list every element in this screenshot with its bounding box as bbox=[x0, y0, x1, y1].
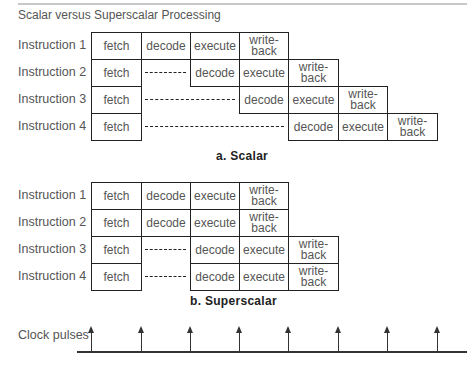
stage-text: back bbox=[299, 277, 328, 288]
stage-text: execute bbox=[243, 68, 285, 79]
stage-text: decode bbox=[244, 95, 283, 106]
stage-execute: execute bbox=[239, 59, 289, 87]
stage-fetch: fetch bbox=[91, 182, 142, 210]
stage-execute: execute bbox=[190, 182, 240, 210]
instruction-label: Instruction 3 bbox=[18, 86, 88, 113]
clock-pulse-arrow-icon bbox=[338, 328, 340, 352]
stage-execute: execute bbox=[190, 32, 240, 60]
stage-fetch: fetch bbox=[91, 59, 142, 87]
stage-text: back bbox=[249, 46, 278, 57]
stage-text: back bbox=[249, 196, 278, 207]
stage-writeback: write-back bbox=[288, 263, 339, 291]
stage-text: decode bbox=[195, 68, 234, 79]
dash-line bbox=[145, 126, 284, 127]
stage-fetch: fetch bbox=[91, 209, 142, 237]
stage-text: fetch bbox=[103, 191, 129, 202]
stage-writeback: write-back bbox=[387, 113, 438, 141]
stage-text: decode bbox=[195, 245, 234, 256]
stage-text-wrap: write-back bbox=[299, 239, 328, 261]
instruction-label: Instruction 4 bbox=[18, 113, 88, 140]
clock-baseline bbox=[77, 351, 467, 353]
stall-dashes bbox=[145, 86, 235, 113]
stage-decode: decode bbox=[239, 86, 289, 114]
instruction-label: Instruction 2 bbox=[18, 59, 88, 86]
clock-pulse-arrow-icon bbox=[91, 328, 93, 352]
stage-text: execute bbox=[194, 191, 236, 202]
stage-text-wrap: write-back bbox=[299, 62, 328, 84]
clock-pulse-arrow-icon bbox=[437, 328, 439, 352]
stage-text: back bbox=[299, 250, 328, 261]
dash-line bbox=[145, 249, 186, 250]
stage-text: fetch bbox=[103, 68, 129, 79]
stage-writeback: write-back bbox=[288, 236, 339, 264]
stage-execute: execute bbox=[239, 236, 289, 264]
stage-text-wrap: write-back bbox=[299, 266, 328, 288]
stage-text: decode bbox=[195, 272, 234, 283]
instruction-label: Instruction 1 bbox=[18, 32, 88, 59]
dash-line bbox=[145, 276, 186, 277]
stage-decode: decode bbox=[288, 113, 339, 141]
stage-writeback: write-back bbox=[288, 59, 339, 87]
stage-fetch: fetch bbox=[91, 236, 142, 264]
stage-decode: decode bbox=[190, 263, 240, 291]
stall-dashes bbox=[145, 263, 186, 290]
stage-execute: execute bbox=[288, 86, 339, 114]
stage-fetch: fetch bbox=[91, 32, 142, 60]
stall-dashes bbox=[145, 113, 284, 140]
stage-decode: decode bbox=[141, 32, 191, 60]
stage-decode: decode bbox=[141, 209, 191, 237]
stall-dashes bbox=[145, 59, 186, 86]
stage-text: fetch bbox=[103, 41, 129, 52]
stage-text: back bbox=[398, 127, 427, 138]
stage-text: fetch bbox=[103, 245, 129, 256]
stage-text-wrap: write-back bbox=[249, 212, 278, 234]
instruction-label: Instruction 1 bbox=[18, 182, 88, 209]
scalar-caption: a. Scalar bbox=[216, 149, 268, 163]
clock-pulse-arrow-icon bbox=[141, 328, 143, 352]
clock-pulses-label: Clock pulses bbox=[18, 328, 89, 342]
clock-pulse-arrow-icon bbox=[387, 328, 389, 352]
stage-execute: execute bbox=[338, 113, 388, 141]
superscalar-caption: b. Superscalar bbox=[190, 294, 277, 308]
top-rule bbox=[18, 3, 467, 5]
instruction-label: Instruction 2 bbox=[18, 209, 88, 236]
stage-text: decode bbox=[294, 122, 333, 133]
stage-text: execute bbox=[194, 41, 236, 52]
stage-text: fetch bbox=[103, 272, 129, 283]
stage-text: back bbox=[348, 100, 377, 111]
stage-text: back bbox=[299, 73, 328, 84]
stage-fetch: fetch bbox=[91, 86, 142, 114]
stage-text: fetch bbox=[103, 218, 129, 229]
stage-text: execute bbox=[243, 245, 285, 256]
stage-execute: execute bbox=[190, 209, 240, 237]
stage-text: execute bbox=[292, 95, 334, 106]
stage-fetch: fetch bbox=[91, 263, 142, 291]
stage-text: decode bbox=[146, 41, 185, 52]
stage-text: decode bbox=[146, 218, 185, 229]
stage-writeback: write-back bbox=[239, 182, 289, 210]
stage-decode: decode bbox=[141, 182, 191, 210]
stage-execute: execute bbox=[239, 263, 289, 291]
stage-text-wrap: write-back bbox=[348, 89, 377, 111]
stage-decode: decode bbox=[190, 236, 240, 264]
stage-text: execute bbox=[243, 272, 285, 283]
stage-fetch: fetch bbox=[91, 113, 142, 141]
stage-text: execute bbox=[342, 122, 384, 133]
stage-text-wrap: write-back bbox=[398, 116, 427, 138]
figure-title: Scalar versus Superscalar Processing bbox=[18, 8, 221, 22]
stage-text: fetch bbox=[103, 122, 129, 133]
stage-text: execute bbox=[194, 218, 236, 229]
stage-text-wrap: write-back bbox=[249, 185, 278, 207]
dash-line bbox=[145, 99, 235, 100]
clock-pulse-arrow-icon bbox=[190, 328, 192, 352]
dash-line bbox=[145, 72, 186, 73]
instruction-label: Instruction 3 bbox=[18, 236, 88, 263]
stage-decode: decode bbox=[190, 59, 240, 87]
stall-dashes bbox=[145, 236, 186, 263]
stage-writeback: write-back bbox=[239, 32, 289, 60]
stage-text: fetch bbox=[103, 95, 129, 106]
stage-text-wrap: write-back bbox=[249, 35, 278, 57]
instruction-label: Instruction 4 bbox=[18, 263, 88, 290]
stage-writeback: write-back bbox=[239, 209, 289, 237]
stage-text: decode bbox=[146, 191, 185, 202]
